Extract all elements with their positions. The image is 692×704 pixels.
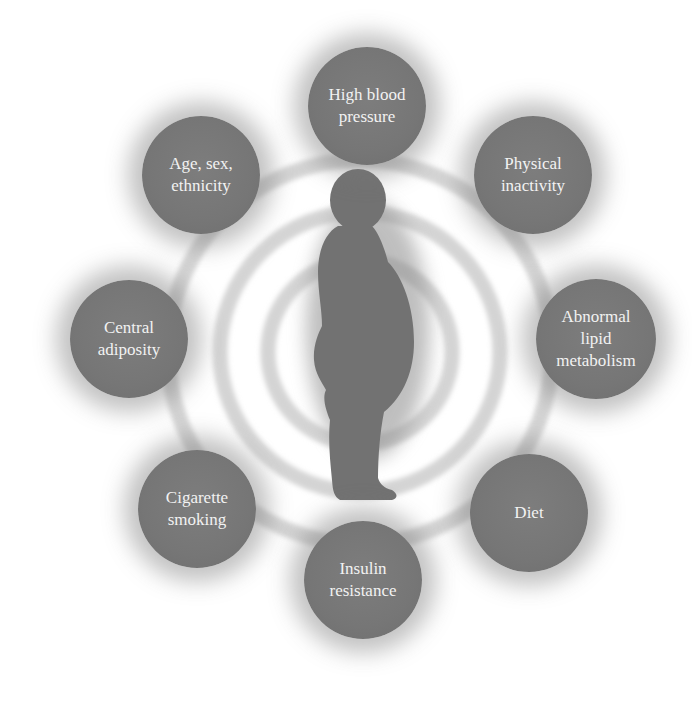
factor-label: smoking xyxy=(168,509,227,531)
ring-inner xyxy=(268,260,452,444)
factor-label: pressure xyxy=(339,106,396,128)
factor-diet: Diet xyxy=(470,454,588,572)
factor-label: Insulin xyxy=(339,558,386,580)
factor-high-blood-pressure: High blood pressure xyxy=(308,47,426,165)
factor-label: inactivity xyxy=(501,175,565,197)
factor-central-adiposity: Central adiposity xyxy=(70,280,188,398)
factor-label: Physical xyxy=(504,153,562,175)
factor-cigarette-smoking: Cigarette smoking xyxy=(138,450,256,568)
factor-label: Central xyxy=(104,317,154,339)
factor-label: ethnicity xyxy=(171,175,230,197)
factor-label: High blood xyxy=(329,84,406,106)
factor-insulin-resistance: Insulin resistance xyxy=(304,521,422,639)
factor-label: Cigarette xyxy=(166,487,228,509)
factor-label: metabolism xyxy=(556,350,635,372)
factor-label: resistance xyxy=(329,580,396,602)
risk-factor-diagram: High blood pressure Physical inactivity … xyxy=(0,0,692,704)
factor-label: lipid xyxy=(580,328,611,350)
factor-label: Age, sex, xyxy=(169,153,233,175)
factor-physical-inactivity: Physical inactivity xyxy=(474,116,592,234)
factor-label: adiposity xyxy=(98,339,160,361)
factor-label: Diet xyxy=(514,502,543,524)
factor-abnormal-lipid-metabolism: Abnormal lipid metabolism xyxy=(536,279,656,399)
factor-age-sex-ethnicity: Age, sex, ethnicity xyxy=(142,116,260,234)
factor-label: Abnormal xyxy=(562,306,631,328)
